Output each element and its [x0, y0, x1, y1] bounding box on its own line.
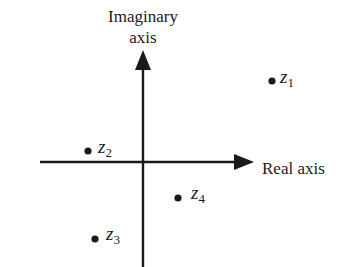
real-axis — [40, 154, 254, 170]
complex-plane-diagram: Imaginary axis Real axis z1 z2 z3 z4 — [0, 0, 348, 267]
point-z2: z2 — [84, 136, 112, 160]
imaginary-axis-label-line2: axis — [129, 28, 156, 47]
imaginary-axis-label-line1: Imaginary — [108, 7, 178, 26]
point-z4: z4 — [174, 182, 205, 206]
point-z3: z3 — [91, 223, 120, 247]
point-z1: z1 — [268, 66, 294, 90]
arrow-up-icon — [135, 50, 151, 70]
point-subscript: 1 — [287, 75, 294, 90]
point-subscript: 2 — [105, 145, 112, 160]
point-subscript: 4 — [198, 191, 205, 206]
svg-text:z4: z4 — [190, 182, 205, 206]
svg-text:z1: z1 — [279, 66, 294, 90]
real-axis-label: Real axis — [262, 159, 325, 178]
point-dot-icon — [268, 77, 275, 84]
point-subscript: 3 — [113, 232, 120, 247]
arrow-right-icon — [234, 154, 254, 170]
svg-text:z3: z3 — [105, 223, 120, 247]
point-dot-icon — [84, 147, 91, 154]
point-dot-icon — [91, 235, 98, 242]
imaginary-axis — [135, 50, 151, 267]
point-dot-icon — [174, 194, 181, 201]
svg-text:z2: z2 — [97, 136, 112, 160]
